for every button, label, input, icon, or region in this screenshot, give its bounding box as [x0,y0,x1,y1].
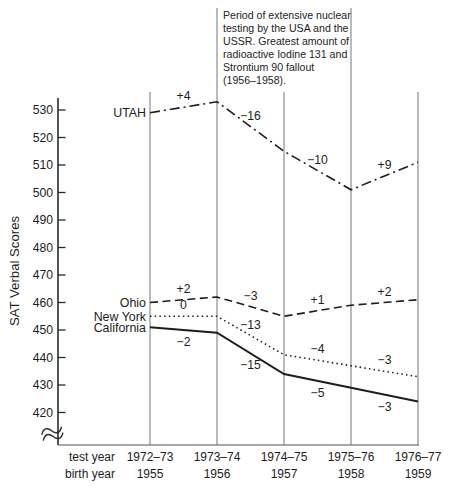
y-axis-title: SAT Verbal Scores [7,216,22,327]
birth-year-1959: 1959 [405,467,432,481]
series-label-ohio: Ohio [120,296,146,310]
change-label-utah-1: −16 [240,109,261,123]
axis-break-icon [41,425,64,442]
test-year-1972–73: 1972–73 [127,450,174,464]
test-year-row-label: test year [69,450,115,464]
change-label-ohio-3: +2 [378,285,392,299]
change-label-new-york-0: 0 [180,298,187,312]
y-tick-label-480: 480 [33,241,54,255]
sat-scores-fallout-chart: 530520510500490480470460450440430420 UTA… [0,0,451,494]
change-label-utah-3: +9 [378,158,392,172]
x-axis-labels: 1972–731973–741974–751975–761976–7719551… [127,450,442,481]
birth-year-1955: 1955 [137,467,164,481]
y-tick-label-420: 420 [33,406,54,420]
series-label-california: California [94,321,146,335]
y-tick-label-430: 430 [33,378,54,392]
y-tick-label-440: 440 [33,351,54,365]
test-year-1975–76: 1975–76 [328,450,375,464]
change-label-ohio-0: +2 [177,282,191,296]
change-label-new-york-2: −4 [311,342,325,356]
birth-year-1957: 1957 [271,467,298,481]
change-label-california-3: −3 [378,400,392,414]
birth-year-row-label: birth year [65,467,115,481]
y-tick-label-460: 460 [33,296,54,310]
change-label-new-york-1: −13 [240,318,261,332]
test-year-1974–75: 1974–75 [261,450,308,464]
series-name-labels: UTAHOhioNew YorkCalifornia [94,106,147,334]
birth-year-1958: 1958 [338,467,365,481]
change-label-california-1: −15 [240,358,261,372]
y-axis-ticks: 530520510500490480470460450440430420 [33,103,66,420]
series-label-utah: UTAH [113,106,146,120]
change-label-california-2: −5 [311,386,325,400]
test-year-1973–74: 1973–74 [194,450,241,464]
change-label-california-0: −2 [177,335,191,349]
nuclear-testing-annotation: Period of extensive nuclear testing by t… [223,9,351,87]
test-year-1976–77: 1976–77 [395,450,442,464]
y-tick-label-470: 470 [33,268,54,282]
change-label-new-york-3: −3 [378,353,392,367]
y-tick-label-500: 500 [33,186,54,200]
y-tick-label-450: 450 [33,323,54,337]
y-tick-label-530: 530 [33,103,54,117]
y-tick-label-520: 520 [33,131,54,145]
birth-year-1956: 1956 [204,467,231,481]
change-label-ohio-1: −3 [244,289,258,303]
y-tick-label-510: 510 [33,158,54,172]
change-label-utah-0: +4 [177,89,191,103]
y-tick-label-490: 490 [33,213,54,227]
change-label-ohio-2: +1 [311,293,325,307]
change-label-utah-2: −10 [307,153,328,167]
